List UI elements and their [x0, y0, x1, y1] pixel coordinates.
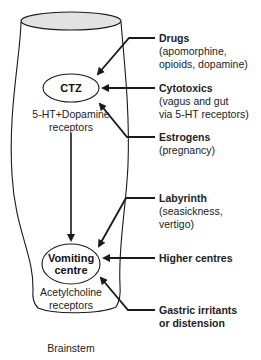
vomiting-receptors-line1: Acetylcholine — [16, 286, 126, 298]
ctz-receptors-line1: 5-HT+Dopamine — [16, 108, 126, 120]
cytotoxics-detail-line2: via 5-HT receptors) — [159, 108, 249, 120]
estrogens-title: Estrogens — [159, 131, 210, 143]
drugs-detail-line2: opioids, dopamine) — [159, 58, 248, 70]
gastric-title-line2: or distension — [159, 317, 225, 329]
ctz-label: CTZ — [43, 82, 99, 94]
drugs-title: Drugs — [159, 32, 189, 44]
drugs-arrow — [98, 38, 155, 74]
labyrinth-title: Labyrinth — [159, 192, 207, 204]
cytotoxics-title: Cytotoxics — [159, 82, 213, 94]
drugs-detail-line1: (apomorphine, — [159, 45, 227, 57]
labyrinth-detail-line1: (seasickness, — [159, 205, 223, 217]
gastric-title-line1: Gastric irritants — [159, 304, 237, 316]
cytotoxics-detail-line1: (vagus and gut — [159, 95, 228, 107]
estrogens-detail-line1: (pregnancy) — [159, 144, 215, 156]
labyrinth-detail-line2: vertigo) — [159, 218, 194, 230]
vomiting-centre-label-line2: centre — [41, 264, 101, 276]
vomiting-receptors-line2: receptors — [16, 299, 126, 311]
labyrinth-arrow — [99, 198, 155, 246]
brainstem-label: Brainstem — [16, 342, 126, 354]
ctz-receptors-line2: receptors — [16, 121, 126, 133]
higher-centres-title: Higher centres — [159, 252, 233, 264]
vomiting-centre-label-line1: Vomiting — [41, 252, 101, 264]
